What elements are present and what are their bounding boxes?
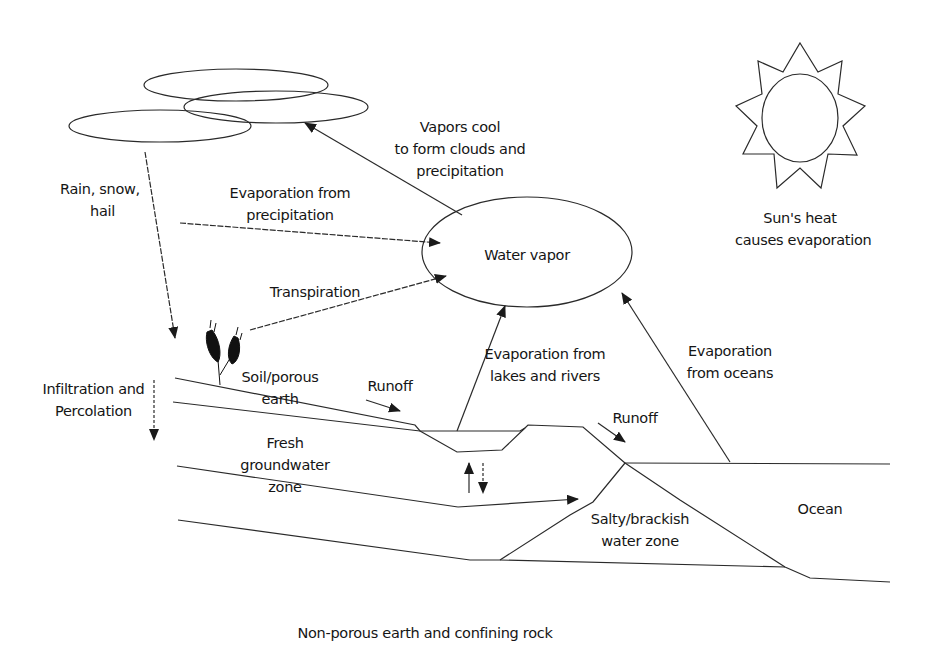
label-evap-precip: Evaporation from precipitation <box>220 182 360 226</box>
label-line: Soil/porous <box>235 366 325 388</box>
label-line: Vapors cool <box>380 116 540 138</box>
label-line: Evaporation from <box>220 182 360 204</box>
label-line: zone <box>230 476 340 498</box>
label-line: precipitation <box>380 160 540 182</box>
label-evap-lakes: Evaporation from lakes and rivers <box>475 343 615 387</box>
label-line: Salty/brackish <box>580 508 700 530</box>
label-ocean: Ocean <box>780 498 860 520</box>
label-runoff-left: Runoff <box>360 375 420 397</box>
label-line: Rain, snow, <box>60 178 150 200</box>
label-water-vapor: Water vapor <box>472 244 582 266</box>
label-rain: Rain, snow, hail <box>60 178 150 222</box>
label-line: precipitation <box>220 204 360 226</box>
evap-precip-arrow <box>180 223 440 243</box>
label-transpiration: Transpiration <box>260 281 370 303</box>
label-salty-zone: Salty/brackish water zone <box>580 508 700 552</box>
cloud-icon <box>184 91 368 123</box>
label-line: Percolation <box>36 400 151 422</box>
label-line: Sun's heat <box>735 207 865 229</box>
label-line: Fresh <box>230 432 340 454</box>
label-soil: Soil/porous earth <box>235 366 325 410</box>
label-line: water zone <box>580 530 700 552</box>
label-line: earth <box>235 388 325 410</box>
cloud-icon <box>144 69 328 101</box>
label-line: lakes and rivers <box>475 365 615 387</box>
label-line: groundwater <box>230 454 340 476</box>
runoff-left-arrow <box>366 400 400 411</box>
groundwater-flow-arrow <box>458 499 578 507</box>
label-line: causes evaporation <box>735 229 865 251</box>
label-line: Infiltration and <box>36 378 151 400</box>
label-line: Evaporation from <box>475 343 615 365</box>
label-fresh-groundwater: Fresh groundwater zone <box>230 432 340 498</box>
label-sun: Sun's heat causes evaporation <box>735 207 865 251</box>
label-bedrock: Non-porous earth and confining rock <box>270 622 580 644</box>
water-cycle-diagram <box>0 0 945 645</box>
label-runoff-right: Runoff <box>605 407 665 429</box>
cloud-icon <box>69 110 251 142</box>
label-line: Evaporation <box>675 340 785 362</box>
label-line: from oceans <box>675 362 785 384</box>
label-evap-oceans: Evaporation from oceans <box>675 340 785 384</box>
label-line: to form clouds and <box>380 138 540 160</box>
label-infiltration: Infiltration and Percolation <box>36 378 151 422</box>
sun-icon <box>736 43 865 188</box>
ocean-surface-line <box>625 463 890 464</box>
label-vapors-cool: Vapors cool to form clouds and precipita… <box>380 116 540 182</box>
label-line: hail <box>60 200 150 222</box>
